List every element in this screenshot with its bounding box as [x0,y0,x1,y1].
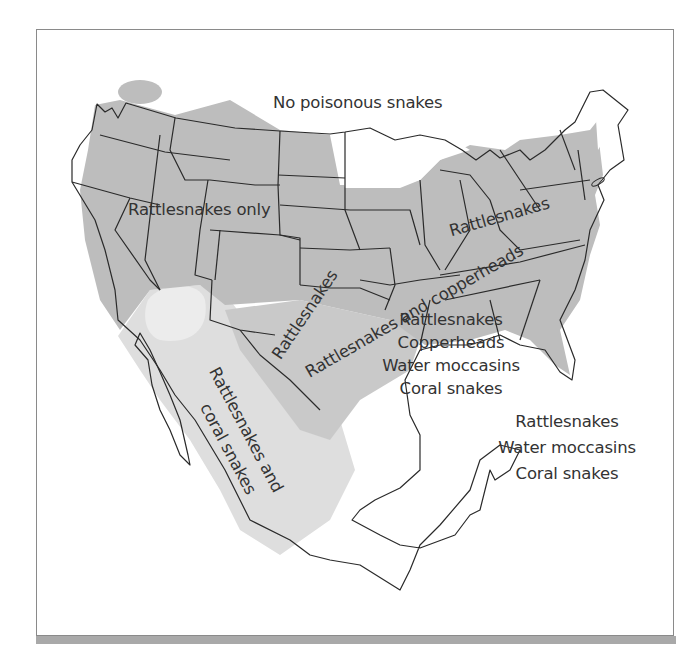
southeast-line-1: Rattlesnakes [376,310,526,330]
southeast-line-4: Coral snakes [376,379,526,399]
southeast-line-3: Water moccasins [376,356,526,376]
label-mexico-east-group: Rattlesnakes Water moccasins Coral snake… [487,412,647,484]
label-southeast-group: Rattlesnakes Copperheads Water moccasins… [376,310,526,399]
mexico-east-line-3: Coral snakes [487,464,647,484]
mexico-east-line-1: Rattlesnakes [487,412,647,432]
mexico-east-line-2: Water moccasins [487,438,647,458]
label-rattlesnakes-only: Rattlesnakes only [128,200,271,220]
label-no-poisonous-snakes: No poisonous snakes [273,93,442,113]
southeast-line-2: Copperheads [376,333,526,353]
